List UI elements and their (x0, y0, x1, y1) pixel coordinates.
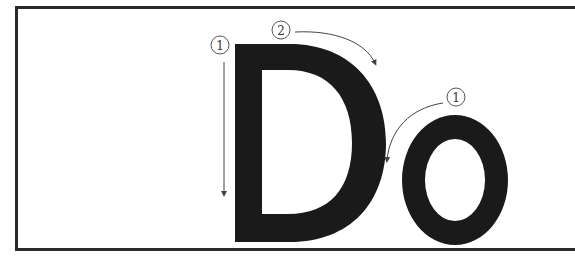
letter-d (235, 44, 386, 242)
stroke-number-label: 1 (452, 91, 460, 105)
stroke-number-label: 2 (277, 24, 285, 38)
stroke-number-label: 1 (216, 39, 224, 53)
d-stroke-1-annotation: 1 (211, 36, 229, 194)
letter-o (402, 115, 508, 245)
